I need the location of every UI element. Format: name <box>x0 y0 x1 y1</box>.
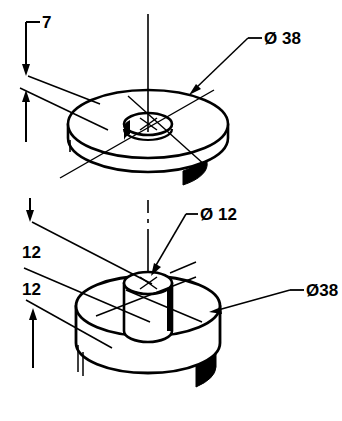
leader-boss-diameter: Ø 12 <box>151 205 237 276</box>
dimension-boss-height: 12 <box>22 198 152 284</box>
dimension-label-12-flange: 12 <box>22 280 41 299</box>
isometric-drawing-svg: 7 Ø 38 12 12 <box>0 0 342 421</box>
leader-bottom-outer-diameter: Ø38 <box>209 281 338 314</box>
dimension-label-top-diameter: Ø 38 <box>264 29 301 48</box>
dimension-label-bottom-diameter: Ø38 <box>306 281 338 300</box>
bottom-flanged-boss-part <box>76 272 220 387</box>
leader-top-outer-diameter: Ø 38 <box>189 29 301 95</box>
dimension-label-12-boss: 12 <box>22 243 41 262</box>
dimension-label-7: 7 <box>42 13 51 32</box>
technical-drawing-canvas: 7 Ø 38 12 12 <box>0 0 342 421</box>
dimension-label-boss-diameter: Ø 12 <box>200 205 237 224</box>
